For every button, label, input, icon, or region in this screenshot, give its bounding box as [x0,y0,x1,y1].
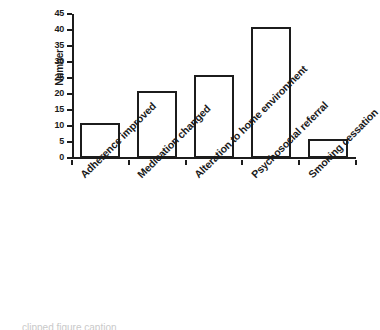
x-tick-mark [71,160,73,165]
y-tick-label: 20 [0,88,64,98]
x-tick-mark [128,160,130,165]
y-tick-label: 5 [0,136,64,146]
y-tick-label: 40 [0,24,64,34]
x-tick-mark [241,160,243,165]
clipped-caption: clipped figure caption [0,322,372,330]
clipped-caption-text: clipped figure caption [0,322,372,330]
x-tick-mark [355,160,357,165]
y-tick-label: 15 [0,104,64,114]
y-tick-label: 25 [0,72,64,82]
y-tick-label: 30 [0,56,64,66]
y-tick-label: 45 [0,8,64,18]
y-tick-label: 35 [0,40,64,50]
y-tick-label: 10 [0,120,64,130]
y-tick-label: 0 [0,152,64,162]
x-tick-mark [298,160,300,165]
x-tick-mark [185,160,187,165]
